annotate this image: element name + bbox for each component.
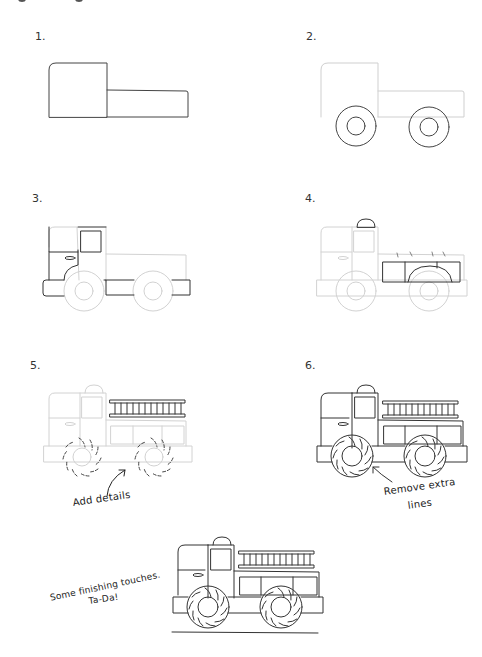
drawing-canvas: [0, 0, 482, 657]
step-3-drawing: [43, 227, 190, 311]
final-drawing: [172, 537, 323, 633]
step-1-drawing: [49, 63, 188, 117]
step-6-drawing: [317, 385, 467, 482]
step-4-drawing: [317, 219, 467, 311]
step-2-drawing: [321, 63, 464, 147]
ground-line: [172, 632, 318, 633]
step-5-drawing: [44, 385, 192, 496]
